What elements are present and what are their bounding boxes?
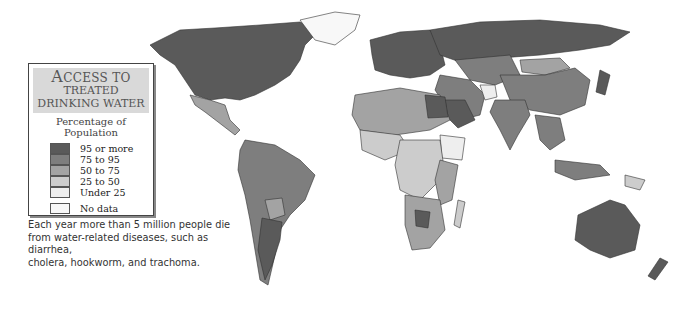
region-new-zealand xyxy=(648,258,668,280)
legend-swatch xyxy=(50,176,70,187)
legend-swatch xyxy=(50,165,70,176)
caption-line-1: Each year more than 5 million people die xyxy=(28,219,248,232)
region-se-asia xyxy=(535,115,565,150)
caption-line-3: cholera, hookworm, and trachoma. xyxy=(28,257,248,270)
region-east-africa xyxy=(435,160,458,205)
legend-label: 75 to 95 xyxy=(80,154,120,165)
legend-item-95-or-more: 95 or more xyxy=(50,143,153,154)
region-north-america xyxy=(150,22,320,100)
legend-label: 25 to 50 xyxy=(80,176,120,187)
legend-label: 50 to 75 xyxy=(80,165,120,176)
legend-item-no-data: No data xyxy=(50,203,153,214)
legend-items: 95 or more 75 to 95 50 to 75 25 to 50 Un… xyxy=(50,143,153,214)
region-madagascar xyxy=(454,200,465,228)
region-australia xyxy=(575,200,640,258)
legend-label: No data xyxy=(80,203,118,214)
legend-swatch xyxy=(50,154,70,165)
legend-item-under-25: Under 25 xyxy=(50,187,153,198)
map-legend: ACCESS TO TREATED DRINKING WATER Percent… xyxy=(28,63,154,216)
region-egypt xyxy=(425,95,448,118)
region-india xyxy=(490,100,530,150)
region-papua xyxy=(625,175,645,190)
region-ethiopia xyxy=(440,135,465,160)
region-russia xyxy=(430,20,630,62)
legend-label: 95 or more xyxy=(80,143,133,154)
legend-item-50-to-75: 50 to 75 xyxy=(50,165,153,176)
map-caption: Each year more than 5 million people die… xyxy=(28,219,248,269)
legend-label: Under 25 xyxy=(80,187,125,198)
region-botswana xyxy=(415,210,430,228)
legend-title: ACCESS TO TREATED DRINKING WATER xyxy=(33,68,149,113)
legend-title-line1: CCESS TO xyxy=(63,71,130,85)
region-japan xyxy=(596,70,610,95)
legend-subtitle: Percentage of Population xyxy=(29,116,153,138)
legend-title-line3: DRINKING WATER xyxy=(33,97,149,110)
legend-item-75-to-95: 75 to 95 xyxy=(50,154,153,165)
legend-item-25-to-50: 25 to 50 xyxy=(50,176,153,187)
legend-title-initial: A xyxy=(51,67,63,86)
region-mexico xyxy=(190,95,240,135)
legend-title-line2: TREATED xyxy=(33,85,149,97)
legend-swatch xyxy=(50,187,70,198)
caption-line-2: from water-related diseases, such as dia… xyxy=(28,232,248,257)
region-indonesia xyxy=(555,160,610,180)
legend-swatch xyxy=(50,143,70,154)
legend-swatch xyxy=(50,203,70,214)
